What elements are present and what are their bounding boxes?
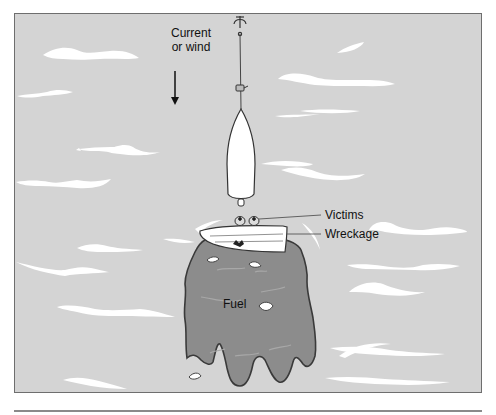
- scene-svg: [15, 14, 482, 393]
- line-float-icon: [236, 85, 248, 91]
- fuel-slick: [184, 236, 315, 386]
- wreckage-label: Wreckage: [325, 227, 379, 241]
- current-label-line2: or wind: [161, 40, 221, 54]
- current-arrow-icon: [171, 71, 179, 105]
- anchor-icon: [234, 16, 246, 36]
- anchor-line: [240, 34, 241, 109]
- fuel-label: Fuel: [223, 297, 246, 311]
- current-label: Current or wind: [161, 26, 221, 54]
- anchored-boat: [227, 109, 255, 206]
- bottom-divider: [14, 410, 482, 412]
- illustration-frame: Current or wind Victims Wreckage Fuel: [14, 13, 482, 393]
- current-label-line1: Current: [161, 26, 221, 40]
- victims: [235, 217, 259, 226]
- victims-label: Victims: [325, 208, 363, 222]
